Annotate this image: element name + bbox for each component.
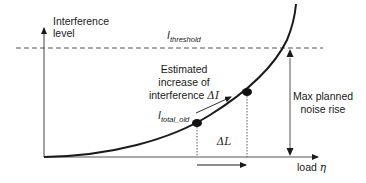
- estimate-text-line3-word: interference: [149, 89, 207, 101]
- interference-load-diagram: Interference level Ithreshold Estimated …: [0, 0, 366, 183]
- noise-rise-arrowhead-up: [287, 49, 294, 57]
- threshold-label: Ithreshold: [167, 29, 202, 44]
- y-axis-label-line1: Interference: [53, 15, 109, 27]
- x-axis-label-text: load: [297, 161, 317, 173]
- new-operating-point: [242, 88, 252, 96]
- delta-load-label: ΔL: [216, 135, 232, 147]
- y-axis-label-line2: level: [53, 27, 75, 39]
- noise-rise-label-line2: noise rise: [301, 103, 346, 115]
- x-axis-symbol: η: [320, 161, 327, 173]
- old-point-subscript: total_old: [161, 115, 190, 124]
- noise-rise-arrowhead-down: [287, 148, 294, 156]
- threshold-subscript: threshold: [170, 35, 202, 44]
- delta-interference-symbol: ΔI: [206, 89, 220, 101]
- estimate-text-line1: Estimated: [161, 63, 208, 75]
- old-operating-point: [192, 119, 202, 127]
- noise-rise-label-line1: Max planned: [293, 90, 353, 102]
- estimate-text-line3: interference ΔI: [149, 89, 220, 101]
- x-axis-label: loadη: [297, 161, 327, 173]
- old-point-label: Itotal_old: [158, 109, 190, 124]
- estimate-text-line2: increase of: [158, 76, 209, 88]
